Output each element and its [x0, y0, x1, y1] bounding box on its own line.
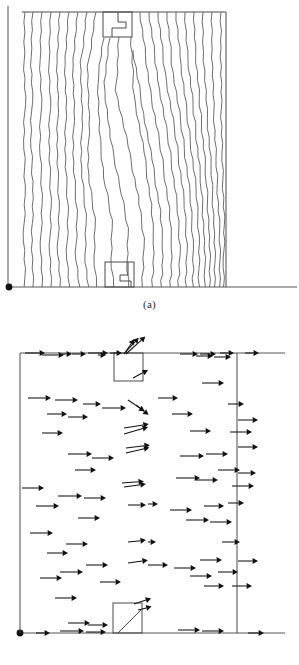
velocity-vector — [204, 583, 224, 589]
velocity-vector — [172, 411, 193, 417]
vector-arrowhead — [219, 503, 224, 509]
vector-arrowhead — [101, 629, 106, 635]
vector-shaft — [124, 429, 143, 434]
vector-arrowhead — [54, 503, 59, 509]
vector-arrowhead — [254, 350, 259, 356]
vector-arrowhead — [219, 380, 224, 386]
vector-arrowhead — [87, 451, 92, 457]
vector-arrowhead — [251, 470, 256, 476]
vector-arrowhead — [83, 414, 88, 420]
vector-arrowhead — [116, 579, 121, 585]
streamline-group — [23, 12, 225, 287]
vector-arrowhead — [253, 444, 258, 450]
velocity-vector — [238, 444, 258, 450]
streamline — [104, 38, 129, 287]
streamline — [211, 12, 220, 287]
velocity-vector — [174, 565, 196, 571]
vector-arrowhead — [239, 500, 244, 506]
vector-arrowhead — [219, 583, 224, 589]
velocity-vector — [88, 622, 108, 628]
vector-arrowhead — [213, 477, 218, 483]
panel-vector-field: (b) — [0, 320, 299, 665]
vector-arrowhead — [211, 351, 216, 357]
vector-arrowhead — [253, 417, 258, 423]
velocity-vector — [180, 351, 198, 357]
velocity-vector — [190, 428, 211, 434]
vector-arrowhead — [188, 411, 193, 417]
vector-arrowhead — [78, 569, 83, 575]
streamline — [64, 12, 69, 287]
velocity-vector — [148, 539, 156, 545]
velocity-vector — [170, 507, 192, 513]
streamline-plot — [0, 0, 299, 320]
vector-arrowhead — [45, 630, 50, 636]
velocity-vector — [55, 397, 78, 403]
figure-root: (a) (b) — [0, 0, 299, 665]
vector-arrowhead — [207, 573, 212, 579]
velocity-vector — [58, 493, 82, 499]
vector-arrowhead — [96, 401, 101, 407]
vector-shaft — [124, 425, 143, 428]
vector-arrowhead — [140, 482, 146, 488]
bottom-obstacle-diagonal — [118, 610, 141, 633]
velocity-vector — [68, 451, 92, 457]
velocity-vector — [75, 467, 96, 473]
velocity-vector — [66, 541, 88, 547]
velocity-vector — [128, 502, 146, 508]
velocity-vector — [148, 501, 158, 507]
top-obstacle-notch — [112, 12, 126, 37]
velocity-vector — [128, 558, 148, 564]
panel-streamlines: (a) — [0, 0, 299, 320]
top-obstacle — [114, 353, 143, 381]
velocity-vector — [36, 503, 59, 509]
vector-arrowhead — [195, 627, 200, 633]
streamline — [115, 37, 144, 287]
velocity-vector — [218, 569, 238, 575]
vector-arrowhead — [191, 565, 196, 571]
vector-arrowhead — [57, 575, 62, 581]
vector-arrowhead — [146, 605, 152, 611]
vector-arrowhead — [151, 539, 156, 545]
vector-arrowhead — [81, 351, 86, 357]
vector-arrowhead — [101, 495, 106, 501]
velocity-vector — [72, 351, 86, 357]
streamline — [23, 12, 26, 287]
velocity-vector — [102, 405, 126, 411]
velocity-vector — [60, 569, 83, 575]
velocity-vector — [47, 411, 67, 417]
vector-shaft — [133, 373, 143, 378]
vector-arrowhead — [39, 485, 44, 491]
velocity-vector — [138, 605, 152, 611]
velocity-vector — [92, 455, 114, 461]
vector-field-plot — [0, 320, 299, 665]
vector-arrowhead — [103, 562, 108, 568]
velocity-vector — [110, 350, 122, 356]
bottom-obstacle — [113, 603, 142, 633]
velocity-vector — [228, 500, 244, 506]
velocity-vector — [230, 429, 252, 435]
velocity-vector — [84, 495, 106, 501]
streamline — [193, 12, 210, 287]
vector-arrowhead — [142, 426, 148, 432]
velocity-vector — [210, 519, 232, 525]
vector-shaft — [126, 446, 144, 448]
vector-arrowhead — [109, 455, 114, 461]
vector-arrowhead — [58, 430, 63, 436]
velocity-vector — [186, 517, 209, 523]
velocity-vector — [128, 538, 146, 544]
velocity-vector — [178, 627, 200, 633]
vector-arrowhead — [206, 428, 211, 434]
velocity-vector — [206, 451, 228, 457]
vector-arrowhead — [223, 451, 228, 457]
panel-b-axes — [17, 353, 285, 636]
vector-shaft — [122, 482, 139, 483]
vector-arrowhead — [73, 397, 78, 403]
velocity-vector — [214, 354, 231, 360]
velocity-vector — [232, 483, 254, 489]
velocity-vector — [190, 573, 212, 579]
velocity-vector — [55, 595, 77, 601]
vector-arrowhead — [163, 562, 168, 568]
bottom-obstacle-notch — [120, 262, 131, 287]
streamline — [40, 12, 43, 287]
velocity-vector — [158, 395, 178, 401]
